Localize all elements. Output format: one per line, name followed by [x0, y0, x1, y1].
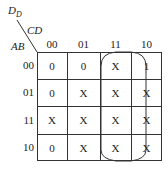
cell-11-01: X	[67, 106, 100, 134]
cell-11-10: X	[131, 106, 162, 134]
cell-01-10: X	[131, 79, 162, 106]
cell-10-10: X	[131, 134, 162, 161]
cd-label: CD	[27, 24, 42, 36]
cell-11-00: X	[37, 106, 67, 134]
cell-00-00: 0	[37, 52, 67, 79]
cell-01-01: X	[67, 79, 100, 106]
cell-10-01: X	[67, 134, 100, 161]
cell-10-00: 0	[37, 134, 67, 161]
cell-10-11: X	[100, 134, 131, 161]
row-header-10: 10	[14, 141, 34, 153]
col-header-01: 01	[67, 38, 100, 50]
cell-00-11: X	[100, 52, 131, 79]
ab-label: AB	[11, 40, 24, 52]
row-header-00: 00	[14, 59, 34, 71]
cell-00-10: 1	[131, 52, 162, 79]
col-header-11: 11	[100, 38, 131, 50]
cell-01-11: X	[100, 79, 131, 106]
col-header-00: 00	[37, 38, 67, 50]
row-header-01: 01	[14, 86, 34, 98]
row-header-11: 11	[14, 114, 34, 126]
cell-00-01: 0	[67, 52, 100, 79]
col-header-10: 10	[131, 38, 162, 50]
cell-11-11: X	[100, 106, 131, 134]
cell-01-00: 0	[37, 79, 67, 106]
